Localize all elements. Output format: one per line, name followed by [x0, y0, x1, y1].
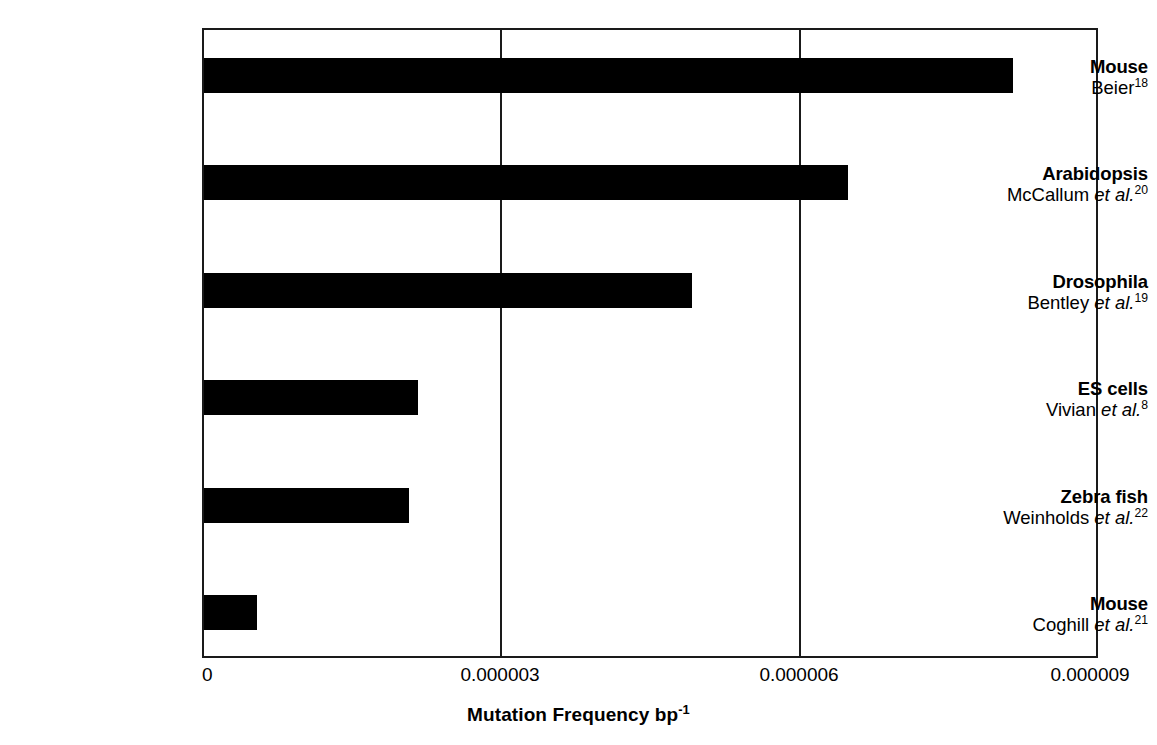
- xtick-label-2: 0.000006: [759, 664, 838, 686]
- xtick-label-3: 0.000009: [1050, 664, 1129, 686]
- reference-superscript: 18: [1134, 76, 1148, 90]
- bar-mouse-coghill: [204, 595, 257, 630]
- xtick-label-0: 0: [202, 664, 213, 686]
- category-label-mouse-beier: Mouse Beier18: [955, 57, 1157, 98]
- category-reference: Bentley et al.19: [955, 293, 1148, 314]
- xtick-label-1: 0.000003: [460, 664, 539, 686]
- reference-etal: et al.: [1094, 184, 1134, 205]
- category-organism: Mouse: [955, 57, 1148, 78]
- reference-etal: et al.: [1094, 292, 1134, 313]
- reference-author: Coghill: [1033, 614, 1090, 635]
- bar-chart-figure: Mouse Beier18 Arabidopsis McCallum et al…: [0, 0, 1157, 745]
- category-organism: Arabidopsis: [955, 164, 1148, 185]
- category-reference: McCallum et al.20: [955, 185, 1148, 206]
- reference-author: Beier: [1091, 77, 1134, 98]
- bar-drosophila-bentley: [204, 273, 692, 308]
- gridline-0.000003: [500, 30, 502, 656]
- reference-superscript: 21: [1134, 613, 1148, 627]
- category-label-arabidopsis-mccallum: Arabidopsis McCallum et al.20: [955, 164, 1157, 205]
- category-label-drosophila-bentley: Drosophila Bentley et al.19: [955, 272, 1157, 313]
- plot-area: [202, 28, 1098, 658]
- category-label-es-cells-vivian: ES cells Vivian et al.8: [955, 379, 1157, 420]
- bar-es-cells-vivian: [204, 380, 418, 415]
- category-organism: Mouse: [955, 594, 1148, 615]
- category-reference: Vivian et al.8: [955, 400, 1148, 421]
- x-axis-title-superscript: -1: [678, 702, 690, 717]
- category-organism: Drosophila: [955, 272, 1148, 293]
- reference-author: Weinholds: [1003, 507, 1089, 528]
- category-label-zebra-fish-weinholds: Zebra fish Weinholds et al.22: [955, 487, 1157, 528]
- reference-superscript: 20: [1134, 183, 1148, 197]
- reference-superscript: 22: [1134, 506, 1148, 520]
- category-reference: Coghill et al.21: [955, 615, 1148, 636]
- bar-zebra-fish-weinholds: [204, 488, 409, 523]
- category-label-mouse-coghill: Mouse Coghill et al.21: [955, 594, 1157, 635]
- bar-arabidopsis-mccallum: [204, 165, 848, 200]
- x-axis-title-text: Mutation Frequency bp: [467, 704, 678, 725]
- reference-author: Vivian: [1046, 399, 1096, 420]
- category-organism: Zebra fish: [955, 487, 1148, 508]
- reference-superscript: 19: [1134, 291, 1148, 305]
- reference-author: McCallum: [1007, 184, 1089, 205]
- x-axis-title: Mutation Frequency bp-1: [0, 704, 1157, 726]
- category-organism: ES cells: [955, 379, 1148, 400]
- gridline-0.000006: [799, 30, 801, 656]
- reference-etal: et al.: [1101, 399, 1141, 420]
- category-reference: Beier18: [955, 78, 1148, 99]
- reference-author: Bentley: [1027, 292, 1089, 313]
- bar-mouse-beier: [204, 58, 1013, 93]
- reference-etal: et al.: [1094, 507, 1134, 528]
- reference-etal: et al.: [1094, 614, 1134, 635]
- reference-superscript: 8: [1141, 398, 1148, 412]
- category-reference: Weinholds et al.22: [955, 508, 1148, 529]
